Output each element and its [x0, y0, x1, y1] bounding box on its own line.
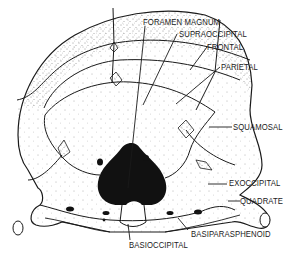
label-parietal: PARIETAL: [221, 63, 258, 71]
label-foramen-magnum: FORAMEN MAGNUM: [143, 18, 220, 26]
label-basiparasphenoid: BASIPARASPHENOID: [191, 230, 271, 238]
label-squamosal: SQUAMOSAL: [233, 123, 283, 131]
label-quadrate: QUADRATE: [240, 197, 283, 205]
skull-diagram: FORAMEN MAGNUM SUPRAOCCIPITAL FRONTAL PA…: [0, 0, 296, 259]
label-basioccipital: BASIOCCIPITAL: [129, 241, 188, 249]
label-exoccipital: EXOCCIPITAL: [229, 179, 280, 187]
label-frontal: FRONTAL: [207, 43, 243, 51]
label-supraoccipital: SUPRAOCCIPITAL: [179, 30, 247, 38]
